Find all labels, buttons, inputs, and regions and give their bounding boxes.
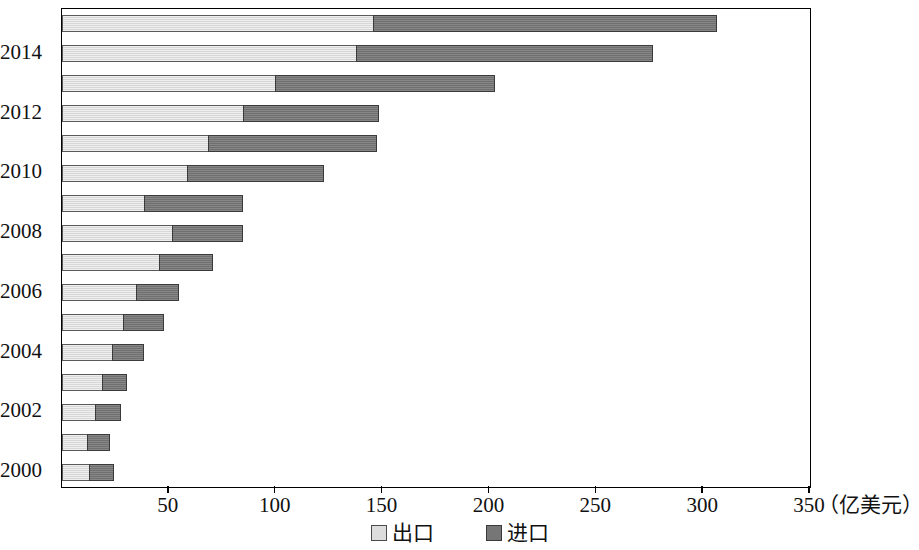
bar-segment-import bbox=[159, 254, 212, 271]
bar-row bbox=[62, 284, 179, 301]
bar-segment-import bbox=[136, 284, 179, 301]
bar-segment-export bbox=[62, 75, 276, 92]
x-axis-tick bbox=[701, 486, 703, 493]
import-swatch bbox=[486, 525, 502, 541]
plot-area bbox=[61, 8, 811, 488]
export-swatch bbox=[371, 525, 387, 541]
bar-segment-export bbox=[62, 135, 209, 152]
bar-segment-export bbox=[62, 284, 137, 301]
bar-segment-import bbox=[172, 225, 243, 242]
bar-segment-import bbox=[102, 374, 128, 391]
bar-row bbox=[62, 105, 379, 122]
x-axis-tick-label: 50 bbox=[157, 494, 178, 516]
bar-row bbox=[62, 404, 121, 421]
x-axis-tick-label: 100 bbox=[259, 494, 291, 516]
y-axis-tick-label: 2002 bbox=[0, 400, 55, 421]
x-axis-tick bbox=[595, 486, 597, 493]
y-axis-tick-label: 2004 bbox=[0, 341, 55, 362]
x-axis-tick-label: 250 bbox=[580, 494, 612, 516]
bars-group bbox=[62, 9, 810, 487]
x-axis-tick bbox=[808, 486, 810, 493]
bar-segment-export bbox=[62, 404, 96, 421]
bar-row bbox=[62, 15, 717, 32]
bar-segment-import bbox=[123, 314, 164, 331]
x-axis-unit-label: （亿美元） bbox=[818, 494, 919, 516]
bar-segment-export bbox=[62, 105, 244, 122]
bar-segment-export bbox=[62, 434, 88, 451]
x-axis-tick-label: 150 bbox=[366, 494, 398, 516]
x-axis-tick bbox=[274, 486, 276, 493]
bar-row bbox=[62, 464, 114, 481]
bar-segment-export bbox=[62, 195, 145, 212]
bar-segment-import bbox=[112, 344, 144, 361]
bar-row bbox=[62, 195, 243, 212]
legend-item-label: 出口 bbox=[392, 522, 434, 544]
bar-segment-import bbox=[275, 75, 495, 92]
x-axis-tick bbox=[381, 486, 383, 493]
bar-segment-export bbox=[62, 15, 374, 32]
bar-row bbox=[62, 434, 110, 451]
x-axis-tick bbox=[488, 486, 490, 493]
bar-row bbox=[62, 374, 127, 391]
bar-segment-export bbox=[62, 45, 357, 62]
bar-row bbox=[62, 165, 324, 182]
x-axis-tick bbox=[167, 486, 169, 493]
bar-segment-import bbox=[144, 195, 242, 212]
y-axis-tick-label: 2008 bbox=[0, 221, 55, 242]
bar-segment-export bbox=[62, 254, 160, 271]
bar-segment-import bbox=[208, 135, 377, 152]
bar-segment-export bbox=[62, 314, 124, 331]
bar-row bbox=[62, 344, 144, 361]
bar-segment-export bbox=[62, 374, 103, 391]
chart-legend: 出口进口 bbox=[0, 522, 919, 544]
bar-row bbox=[62, 254, 213, 271]
bar-row bbox=[62, 135, 377, 152]
bar-segment-export bbox=[62, 165, 188, 182]
y-axis-tick-label: 2012 bbox=[0, 102, 55, 123]
x-axis-tick-label: 300 bbox=[686, 494, 718, 516]
x-axis-tick-label: 200 bbox=[473, 494, 505, 516]
bar-segment-import bbox=[187, 165, 324, 182]
bar-row bbox=[62, 75, 495, 92]
x-axis: 50100150200250300350 bbox=[61, 486, 809, 526]
y-axis-tick-label: 2000 bbox=[0, 460, 55, 481]
y-axis-tick-label: 2014 bbox=[0, 42, 55, 63]
bar-segment-import bbox=[243, 105, 380, 122]
chart-container: 20142012201020082006200420022000 5010015… bbox=[0, 0, 919, 550]
legend-item-label: 进口 bbox=[507, 522, 549, 544]
y-axis-tick-label: 2006 bbox=[0, 281, 55, 302]
bar-segment-import bbox=[87, 434, 111, 451]
y-axis-tick-label: 2010 bbox=[0, 161, 55, 182]
bar-row bbox=[62, 314, 164, 331]
legend-item: 出口 bbox=[371, 522, 434, 544]
bar-segment-import bbox=[95, 404, 121, 421]
legend-item: 进口 bbox=[486, 522, 549, 544]
bar-segment-export bbox=[62, 464, 90, 481]
bar-segment-export bbox=[62, 344, 113, 361]
bar-row bbox=[62, 225, 243, 242]
bar-segment-export bbox=[62, 225, 173, 242]
bar-segment-import bbox=[373, 15, 717, 32]
y-axis-labels: 20142012201020082006200420022000 bbox=[0, 8, 55, 486]
bar-segment-import bbox=[89, 464, 115, 481]
bar-segment-import bbox=[356, 45, 653, 62]
bar-row bbox=[62, 45, 653, 62]
